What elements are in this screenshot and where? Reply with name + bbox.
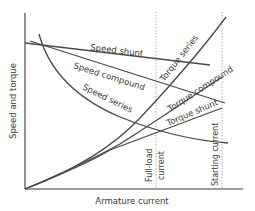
starting-current-label: Starting current	[211, 123, 220, 186]
speed-shunt-label: Speed shunt	[90, 42, 145, 58]
torque-shunt-curve	[25, 108, 222, 189]
y-axis-title: Speed and torque	[8, 63, 18, 139]
motor-characteristics-chart: Speed shunt Speed compound Speed series …	[0, 0, 255, 211]
x-axis-title: Armature current	[95, 196, 169, 206]
full-load-label-line1: Full-load	[145, 148, 154, 182]
full-load-label-line2: current	[157, 151, 166, 180]
